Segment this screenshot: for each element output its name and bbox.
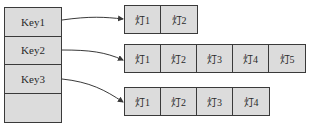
light-node: 灯4 xyxy=(233,45,269,72)
light-node: 灯2 xyxy=(161,45,197,72)
chain-key3: 灯1 灯2 灯3 灯4 xyxy=(124,87,270,116)
arrow-key2 xyxy=(62,50,123,60)
chain-key1: 灯1 灯2 xyxy=(124,5,198,34)
light-node: 灯1 xyxy=(125,88,161,115)
chain-key2: 灯1 灯2 灯3 灯4 灯5 xyxy=(124,44,306,73)
light-node: 灯2 xyxy=(161,6,197,33)
light-node: 灯5 xyxy=(269,45,305,72)
light-node: 灯3 xyxy=(197,88,233,115)
light-node: 灯1 xyxy=(125,6,161,33)
light-node: 灯2 xyxy=(161,88,197,115)
arrow-key1 xyxy=(62,17,123,20)
arrow-key3 xyxy=(62,79,123,102)
light-node: 灯1 xyxy=(125,45,161,72)
light-node: 灯3 xyxy=(197,45,233,72)
light-node: 灯4 xyxy=(233,88,269,115)
